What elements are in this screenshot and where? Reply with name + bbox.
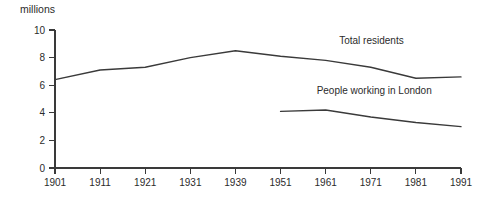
x-tick-label: 1901 xyxy=(44,177,67,188)
series-annotation-label: People working in London xyxy=(317,85,432,96)
x-tick-label: 1971 xyxy=(360,177,383,188)
y-tick-label: 6 xyxy=(39,80,45,91)
x-tick-label: 1981 xyxy=(405,177,428,188)
chart-page: millions 0246810 19011911192119311939195… xyxy=(0,0,488,208)
chart-axes xyxy=(55,30,461,168)
y-tick-label: 8 xyxy=(39,52,45,63)
x-tick-label: 1921 xyxy=(134,177,157,188)
x-axis-ticks: 1901191119211931193919511961197119811991 xyxy=(44,168,473,188)
x-tick-label: 1991 xyxy=(450,177,473,188)
y-axis-ticks: 0246810 xyxy=(34,25,55,174)
y-tick-label: 10 xyxy=(34,25,46,36)
y-axis-unit-label: millions xyxy=(20,3,55,15)
x-tick-label: 1951 xyxy=(269,177,292,188)
line-chart: millions 0246810 19011911192119311939195… xyxy=(0,0,488,208)
y-tick-label: 4 xyxy=(39,107,45,118)
series-line xyxy=(55,51,461,80)
series-annotations: Total residentsPeople working in London xyxy=(317,35,432,96)
x-tick-label: 1961 xyxy=(315,177,338,188)
x-tick-label: 1931 xyxy=(179,177,202,188)
x-tick-label: 1911 xyxy=(89,177,111,188)
y-tick-label: 0 xyxy=(39,163,45,174)
y-tick-label: 2 xyxy=(39,135,45,146)
series-annotation-label: Total residents xyxy=(339,35,403,46)
x-tick-label: 1939 xyxy=(224,177,247,188)
series-line xyxy=(281,110,461,127)
